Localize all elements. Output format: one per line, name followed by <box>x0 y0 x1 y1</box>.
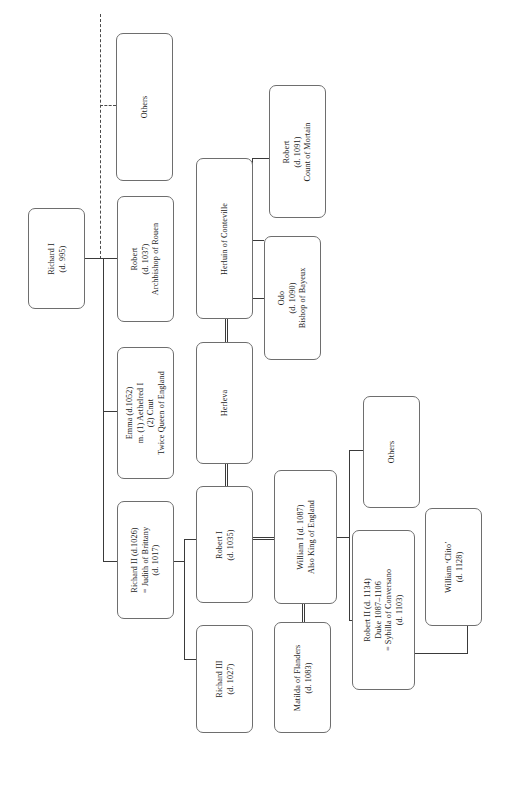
node-emma-label: Emma (d.1052) m. (1) Aethelred I (2) Cnu… <box>125 371 167 455</box>
node-matilda-label: Matilda of Flanders (d. 1083) <box>292 644 313 710</box>
node-robert-archbishop-rouen-label: Robert (d. 1037) Archbishop of Rouen <box>130 223 162 295</box>
node-herleva[interactable]: Herleva <box>196 342 253 464</box>
node-richard-i[interactable]: Richard I (d. 995) <box>28 208 85 309</box>
william-i-children-spine <box>349 450 350 620</box>
marriage-herluin-herleva <box>225 319 228 342</box>
branch-to-emma <box>103 411 117 412</box>
richard-i-children-spine <box>103 258 104 561</box>
link-robert-ii-william-clito <box>415 653 468 654</box>
branch-to-richard-ii <box>103 561 117 562</box>
node-robert-i[interactable]: Robert I (d. 1035) <box>196 486 253 603</box>
node-herluin-label: Herluin of Conteville <box>219 202 230 274</box>
node-robert-i-label: Robert I (d. 1035) <box>214 529 235 560</box>
richard-i-stem <box>85 258 104 259</box>
branch-to-others-right <box>349 450 363 451</box>
node-others-right[interactable]: Others <box>363 396 420 508</box>
node-odo-label: Odo (d. 1090) Bishop of Bayeux <box>277 268 309 329</box>
node-william-i-label: William I (d. 1087) Also King of England <box>295 500 316 574</box>
branch-to-odo <box>252 298 264 299</box>
richard-ii-children-spine <box>184 539 185 659</box>
node-richard-ii[interactable]: Richard II (d.1026) = Judith of Brittany… <box>117 501 174 619</box>
genealogy-chart: Others Richard I (d. 995) Robert (d. 103… <box>0 0 511 798</box>
branch-to-robert-mortain <box>252 158 269 159</box>
node-william-clito-label: William ‘Clito’ (d. 1128) <box>443 541 464 593</box>
node-herluin-of-conteville[interactable]: Herluin of Conteville <box>196 158 253 319</box>
node-others-right-label: Others <box>386 441 397 463</box>
branch-to-robert-rouen <box>103 258 117 259</box>
node-robert-ii[interactable]: Robert II (d. 1134) Duke 1087–1106 = Syb… <box>352 530 415 690</box>
node-others-top-label: Others <box>139 96 150 118</box>
node-richard-ii-label: Richard II (d.1026) = Judith of Brittany… <box>130 527 162 593</box>
node-richard-iii-label: Richard III (d. 1027) <box>214 660 235 697</box>
node-richard-i-label: Richard I (d. 995) <box>46 243 67 275</box>
node-robert-count-of-mortain[interactable]: Robert (d. 1091) Count of Mortain <box>269 85 326 218</box>
node-robert-ii-label: Robert II (d. 1134) Duke 1087–1106 = Syb… <box>363 569 405 651</box>
dashed-branch-others <box>100 105 116 106</box>
node-robert-mortain-label: Robert (d. 1091) Count of Mortain <box>282 122 314 181</box>
node-odo-bishop-of-bayeux[interactable]: Odo (d. 1090) Bishop of Bayeux <box>264 236 321 360</box>
herluin-children-stem <box>252 240 264 241</box>
marriage-herleva-robert-i <box>225 464 228 486</box>
node-william-i[interactable]: William I (d. 1087) Also King of England <box>274 470 337 604</box>
link-robert-i-william-i <box>252 537 274 540</box>
node-matilda-of-flanders[interactable]: Matilda of Flanders (d. 1083) <box>274 622 331 733</box>
node-herleva-label: Herleva <box>219 390 230 417</box>
node-robert-archbishop-rouen[interactable]: Robert (d. 1037) Archbishop of Rouen <box>117 196 174 322</box>
marriage-william-i-matilda <box>302 604 305 622</box>
node-william-clito[interactable]: William ‘Clito’ (d. 1128) <box>425 508 482 626</box>
william-i-children-stem <box>337 537 350 538</box>
node-richard-iii[interactable]: Richard III (d. 1027) <box>196 625 253 733</box>
dashed-ancestor-line <box>100 14 101 259</box>
node-emma[interactable]: Emma (d.1052) m. (1) Aethelred I (2) Cnu… <box>117 347 174 479</box>
richard-ii-stem <box>174 561 185 562</box>
node-others-top[interactable]: Others <box>116 33 173 181</box>
